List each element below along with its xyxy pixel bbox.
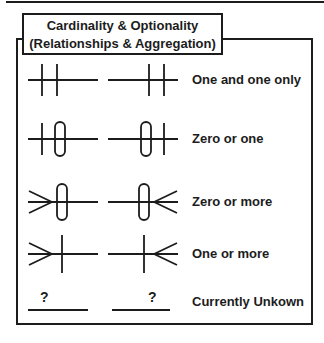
row-label-one-and-one-only: One and one only	[192, 72, 310, 88]
row-label-zero-or-one: Zero or one	[192, 131, 310, 147]
one-and-one-only-left-symbol-icon	[26, 58, 102, 102]
title-line-2: (Relationships & Aggregation)	[24, 35, 221, 53]
title-box: Cardinality & Optionality (Relationships…	[22, 13, 223, 55]
row-label-zero-or-more: Zero or more	[192, 194, 310, 210]
question-mark-left: ?	[40, 289, 49, 305]
one-or-more-left-symbol-icon	[26, 232, 102, 276]
title-line-1: Cardinality & Optionality	[24, 17, 221, 35]
zero-or-more-left-symbol-icon	[26, 180, 102, 224]
one-or-more-right-symbol-icon	[104, 232, 180, 276]
zero-or-one-right-symbol-icon	[104, 117, 180, 161]
one-and-one-only-right-symbol-icon	[104, 58, 180, 102]
zero-or-more-right-symbol-icon	[104, 180, 180, 224]
zero-or-one-left-symbol-icon	[26, 117, 102, 161]
row-label-one-or-more: One or more	[192, 246, 310, 262]
top-crop-line	[6, 1, 324, 3]
unknown-line-right	[112, 309, 170, 311]
row-label-currently-unkown: Currently Unkown	[192, 294, 310, 310]
unknown-line-left	[28, 309, 88, 311]
cardinality-legend-diagram: Cardinality & Optionality (Relationships…	[0, 0, 324, 343]
question-mark-right: ?	[148, 289, 157, 305]
